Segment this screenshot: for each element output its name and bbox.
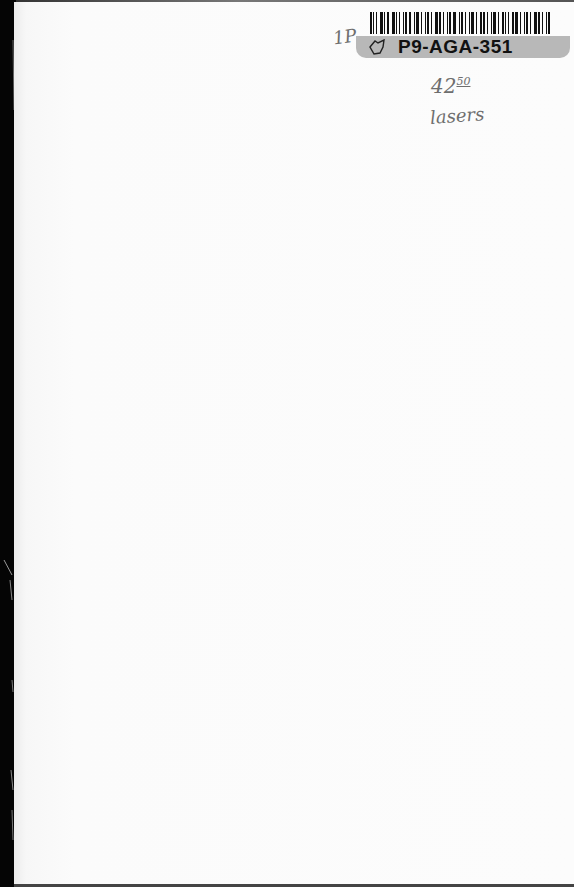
- barcode-bar: [425, 12, 426, 34]
- barcode-bar: [459, 12, 460, 34]
- barcode-bar: [508, 12, 509, 34]
- barcode-bar: [505, 12, 506, 34]
- barcode-bar: [461, 12, 463, 34]
- handwritten-mark: 1P: [332, 24, 358, 48]
- barcode-bar: [387, 12, 389, 34]
- barcode-bar: [380, 12, 383, 34]
- barcode-bar: [542, 12, 543, 34]
- barcode-bar: [483, 12, 485, 34]
- barcode-bar: [498, 12, 499, 34]
- barcode-bar: [526, 12, 528, 34]
- blank-endpaper: [14, 2, 574, 884]
- barcode-bar: [546, 12, 547, 34]
- barcode-bar: [524, 12, 525, 34]
- barcode-bar: [409, 12, 411, 34]
- barcode-bar: [414, 12, 415, 34]
- barcode-bar: [520, 12, 521, 34]
- barcode-bar: [416, 12, 419, 34]
- barcode-bar: [480, 12, 482, 34]
- barcode-bar: [515, 12, 518, 34]
- price-tag-icon: [368, 39, 386, 55]
- barcode-bar: [403, 12, 404, 34]
- barcode-bar: [530, 12, 531, 34]
- price-cents: 50: [456, 75, 470, 88]
- barcode-bar: [392, 12, 395, 34]
- barcode-bar: [493, 12, 496, 34]
- barcode-bar: [427, 12, 429, 34]
- library-barcode-sticker: P9-AGA-351: [356, 12, 570, 58]
- barcode-bar: [465, 12, 466, 34]
- barcode-bar: [491, 12, 492, 34]
- barcode-bar: [453, 12, 456, 34]
- price-main: 42: [431, 74, 456, 98]
- barcode-bar: [502, 12, 504, 34]
- barcode-bar: [405, 12, 407, 34]
- barcode-bar: [439, 12, 441, 34]
- barcode-bar: [538, 12, 540, 34]
- barcode-icon: [370, 12, 556, 34]
- barcode-bar: [534, 12, 537, 34]
- barcode-bar: [447, 12, 448, 34]
- barcode-bar: [376, 12, 377, 34]
- barcode-bar: [435, 12, 438, 34]
- barcode-bar: [370, 12, 372, 34]
- barcode-bar: [512, 12, 514, 34]
- catalog-label: P9-AGA-351: [356, 36, 570, 58]
- barcode-bar: [487, 12, 488, 34]
- barcode-bar: [421, 12, 422, 34]
- barcode-bar: [449, 12, 451, 34]
- handwritten-price: 4250: [431, 74, 470, 98]
- barcode-bar: [431, 12, 432, 34]
- barcode-bar: [399, 12, 400, 34]
- barcode-bar: [471, 12, 474, 34]
- barcode-bar: [396, 12, 397, 34]
- barcode-bar: [373, 12, 374, 34]
- catalog-number: P9-AGA-351: [398, 36, 513, 58]
- barcode-bar: [384, 12, 385, 34]
- barcode-bar: [469, 12, 470, 34]
- handwritten-subject: lasers: [429, 103, 485, 128]
- barcode-bar: [443, 12, 444, 34]
- barcode-bar: [476, 12, 477, 34]
- barcode-bar: [548, 12, 550, 34]
